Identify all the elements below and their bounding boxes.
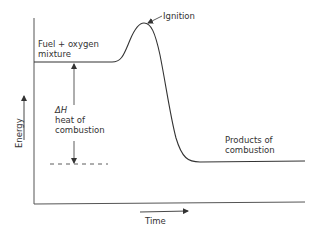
ignition-pointer-icon bbox=[148, 16, 162, 23]
products-label-line2: combustion bbox=[225, 145, 275, 155]
time-arrow-icon bbox=[140, 211, 188, 212]
x-axis bbox=[34, 202, 305, 204]
delta-h-label-line3: combustion bbox=[55, 125, 105, 135]
reactants-label-line2: mixture bbox=[38, 49, 71, 59]
delta-h-label-line2: heat of bbox=[55, 115, 86, 125]
y-axis-label: Energy bbox=[14, 118, 24, 148]
delta-h-symbol: ΔH bbox=[54, 105, 68, 115]
energy-diagram: Energy Time Fuel + oxygen mixture Igniti… bbox=[0, 0, 319, 237]
reactants-label-line1: Fuel + oxygen bbox=[38, 39, 99, 49]
ignition-label: Ignition bbox=[163, 11, 195, 21]
products-label-line1: Products of bbox=[225, 135, 274, 145]
x-axis-label: Time bbox=[144, 216, 166, 226]
